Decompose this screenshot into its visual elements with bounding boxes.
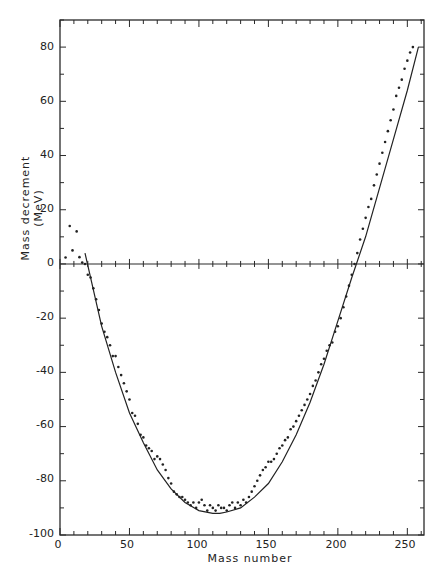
data-point <box>164 469 167 472</box>
data-point <box>278 447 281 450</box>
data-point <box>223 507 226 510</box>
data-point <box>406 59 409 62</box>
data-point <box>114 355 117 358</box>
data-point <box>170 482 173 485</box>
data-point <box>228 504 231 507</box>
data-point <box>84 263 87 266</box>
data-point <box>306 398 309 401</box>
data-point <box>273 458 276 461</box>
data-point <box>256 479 259 482</box>
data-point <box>156 455 159 458</box>
data-point <box>64 256 67 259</box>
data-point <box>400 78 403 81</box>
x-tick-label: 100 <box>177 538 217 551</box>
data-point <box>134 414 137 417</box>
data-point <box>395 95 398 98</box>
data-point <box>317 371 320 374</box>
data-point <box>373 184 376 187</box>
data-point <box>209 504 212 507</box>
data-point <box>309 393 312 396</box>
data-point <box>292 425 295 428</box>
data-point <box>248 496 251 499</box>
fit-curve <box>85 47 418 513</box>
data-point <box>220 507 223 510</box>
plot-frame <box>60 20 424 535</box>
data-point <box>159 458 162 461</box>
data-point <box>267 461 270 464</box>
x-tick-label: 0 <box>38 538 78 551</box>
data-point <box>387 130 390 133</box>
data-point <box>370 198 373 201</box>
x-tick-label: 250 <box>385 538 425 551</box>
data-point <box>367 206 370 209</box>
data-point <box>181 496 184 499</box>
data-point <box>398 86 401 89</box>
data-point <box>109 344 112 347</box>
data-point <box>364 217 367 220</box>
data-point <box>384 141 387 144</box>
data-point <box>123 382 126 385</box>
data-point <box>137 423 140 426</box>
data-point <box>270 461 273 464</box>
data-point <box>184 498 187 501</box>
data-point <box>403 67 406 70</box>
data-point <box>78 256 81 259</box>
data-point <box>392 108 395 111</box>
data-point <box>295 420 298 423</box>
data-point <box>231 501 234 504</box>
data-point <box>237 501 240 504</box>
data-point <box>303 404 306 407</box>
data-point <box>281 444 284 447</box>
data-point <box>259 474 262 477</box>
data-point <box>253 485 256 488</box>
data-point <box>117 366 120 369</box>
y-tick-label: -40 <box>14 364 54 377</box>
x-tick-label: 150 <box>246 538 286 551</box>
data-point <box>203 504 206 507</box>
x-tick-label: 50 <box>107 538 147 551</box>
data-point <box>167 477 170 480</box>
data-point <box>250 490 253 493</box>
data-point <box>86 273 89 276</box>
data-point <box>162 463 165 466</box>
data-point <box>264 466 267 469</box>
y-tick-label: 40 <box>14 148 54 161</box>
data-point <box>359 238 362 241</box>
data-point <box>287 436 290 439</box>
y-tick-label: -20 <box>14 310 54 323</box>
y-tick-label: -60 <box>14 418 54 431</box>
data-point <box>148 447 151 450</box>
data-point <box>356 252 359 255</box>
data-point <box>389 119 392 122</box>
data-point <box>120 374 123 377</box>
data-point <box>362 227 365 230</box>
y-tick-label: 60 <box>14 94 54 107</box>
chart-plot <box>0 0 440 574</box>
data-point <box>262 469 265 472</box>
data-point <box>128 398 131 401</box>
data-point <box>200 498 203 501</box>
data-point <box>339 317 342 320</box>
data-point <box>312 385 315 388</box>
data-point <box>378 162 381 165</box>
data-point <box>214 509 217 512</box>
data-point <box>353 263 356 266</box>
x-axis-title: Mass number <box>190 552 310 565</box>
data-point <box>111 355 114 358</box>
x-tick-label: 200 <box>316 538 356 551</box>
data-point <box>192 501 195 504</box>
data-point <box>300 409 303 412</box>
data-point <box>375 173 378 176</box>
data-point <box>150 450 153 453</box>
data-point <box>284 439 287 442</box>
data-point <box>314 379 317 382</box>
data-point <box>275 452 278 455</box>
data-point <box>106 336 109 339</box>
data-point <box>239 504 242 507</box>
data-point <box>153 458 156 461</box>
y-tick-label: -80 <box>14 472 54 485</box>
data-point <box>131 412 134 415</box>
data-point <box>217 504 220 507</box>
data-point <box>212 507 215 510</box>
data-point <box>409 51 412 54</box>
